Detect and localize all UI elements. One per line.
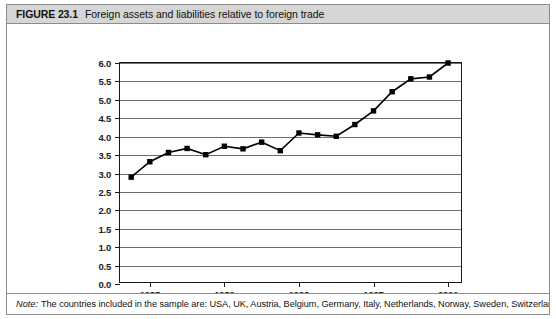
y-axis-tick-label: 3.0	[98, 168, 111, 179]
data-point-marker	[147, 159, 152, 164]
data-series-line	[120, 63, 463, 284]
y-axis-tick-label: 6.0	[98, 58, 111, 69]
chart-body: 0.00.51.01.52.02.53.03.54.04.55.05.56.0 …	[7, 24, 549, 293]
y-axis-tick-label: 1.5	[98, 223, 111, 234]
data-point-marker	[445, 60, 450, 65]
y-axis-tick-label: 5.0	[98, 94, 111, 105]
data-point-marker	[408, 76, 413, 81]
data-point-marker	[259, 139, 264, 144]
figure-title-text: Foreign assets and liabilities relative …	[85, 8, 324, 20]
data-point-marker	[352, 122, 357, 127]
data-point-marker	[334, 134, 339, 139]
y-axis-tick-mark	[115, 284, 120, 285]
data-point-marker	[427, 74, 432, 79]
data-point-marker	[240, 146, 245, 151]
data-point-marker	[278, 148, 283, 153]
y-axis-tick-label: 5.5	[98, 76, 111, 87]
data-point-marker	[203, 152, 208, 157]
figure-number-label: FIGURE 23.1	[16, 8, 78, 20]
data-point-marker	[296, 130, 301, 135]
note-text: The countries included in the sample are…	[41, 299, 549, 309]
data-point-marker	[128, 174, 133, 179]
data-point-marker	[184, 146, 189, 151]
data-point-marker	[371, 108, 376, 113]
figure-title-bar: FIGURE 23.1 Foreign assets and liabiliti…	[7, 5, 549, 24]
data-point-marker	[166, 150, 171, 155]
y-axis-tick-label: 4.5	[98, 113, 111, 124]
y-axis-tick-label: 2.0	[98, 205, 111, 216]
figure-container: FIGURE 23.1 Foreign assets and liabiliti…	[6, 4, 550, 315]
plot-area: 0.00.51.01.52.02.53.03.54.04.55.05.56.0 …	[119, 62, 462, 283]
y-axis-tick-label: 2.5	[98, 186, 111, 197]
note-prefix: Note:	[16, 299, 38, 309]
y-axis-tick-label: 1.0	[98, 242, 111, 253]
series-polyline	[131, 63, 448, 177]
data-point-marker	[222, 144, 227, 149]
data-point-marker	[315, 132, 320, 137]
y-axis-tick-label: 3.5	[98, 150, 111, 161]
data-point-marker	[389, 89, 394, 94]
figure-note: Note: The countries included in the samp…	[7, 293, 549, 314]
y-axis-tick-label: 0.5	[98, 260, 111, 271]
y-axis-tick-label: 4.0	[98, 131, 111, 142]
y-axis-tick-label: 0.0	[98, 279, 111, 290]
